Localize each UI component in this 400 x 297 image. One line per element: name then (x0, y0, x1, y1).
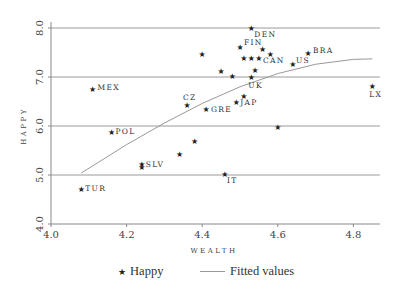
legend-item-happy: ★ Happy (118, 264, 163, 279)
fitted-line (81, 59, 372, 173)
y-tick-label: 6.0 (34, 118, 45, 134)
point-label: SLV (146, 160, 165, 169)
star-marker-icon: ★ (108, 128, 115, 137)
star-marker-icon: ★ (191, 137, 198, 146)
point-label: CAN (263, 56, 285, 65)
legend-label-happy: Happy (130, 264, 163, 279)
star-marker-icon: ★ (138, 163, 145, 172)
star-marker-icon: ★ (199, 50, 206, 59)
point-label: BRA (313, 46, 333, 55)
legend-item-fitted: Fitted values (200, 264, 294, 279)
point-label: TUR (85, 184, 106, 193)
star-marker-icon: ★ (183, 101, 190, 110)
star-marker-icon: ★ (176, 150, 183, 159)
legend: ★ Happy Fitted values (0, 264, 400, 284)
y-axis-title: HAPPY (20, 107, 28, 145)
star-marker-icon: ★ (218, 67, 225, 76)
point-label: CZ (183, 93, 197, 102)
x-tick-label: 4.6 (270, 229, 286, 240)
star-marker-icon: ★ (78, 185, 85, 194)
point-label: POL (115, 127, 135, 136)
star-marker-icon: ★ (202, 105, 209, 114)
y-tick-label: 5.0 (34, 167, 45, 183)
x-tick-label: 4.8 (345, 229, 361, 240)
line-swatch-icon (200, 271, 225, 272)
star-marker-icon: ★ (229, 72, 236, 81)
star-marker-icon: ★ (274, 123, 281, 132)
point-label: MEX (98, 83, 120, 92)
y-tick-label: 8.0 (34, 20, 45, 36)
x-axis-title: WEALTH (190, 247, 237, 255)
star-marker-icon: ★ (233, 98, 240, 107)
y-tick-label: 7.0 (34, 69, 45, 85)
star-marker-icon: ★ (304, 49, 311, 58)
x-tick-label: 4.2 (119, 229, 135, 240)
star-marker-icon: ★ (259, 45, 266, 54)
star-marker-icon: ★ (255, 54, 262, 63)
star-marker-icon: ★ (240, 92, 247, 101)
star-marker-icon: ★ (240, 54, 247, 63)
star-icon: ★ (118, 267, 126, 277)
star-marker-icon: ★ (236, 43, 243, 52)
point-label: GRE (211, 105, 232, 114)
scatter-chart: 4.05.06.07.08.04.04.24.44.64.8 ★DEN★FIN★… (0, 0, 400, 297)
star-marker-icon: ★ (248, 54, 255, 63)
point-label: IT (227, 176, 238, 185)
x-tick-label: 4.4 (194, 229, 210, 240)
point-label: LX (369, 90, 382, 99)
star-marker-icon: ★ (89, 85, 96, 94)
point-label: UK (248, 81, 263, 90)
x-tick-label: 4.0 (43, 229, 59, 240)
legend-label-fitted: Fitted values (230, 264, 294, 279)
data-points: ★DEN★FIN★★★★★CAN★★★★★UK★US★BRA★LX★MEX★CZ… (78, 24, 383, 194)
